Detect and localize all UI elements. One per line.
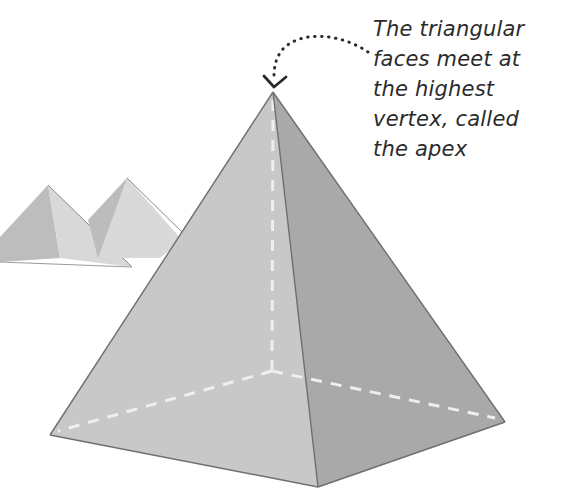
annotation-line-3: the highest — [373, 74, 583, 104]
arrowhead-icon — [264, 76, 286, 87]
apex-pointer-arrow — [264, 36, 368, 87]
annotation-line-1: The triangular — [373, 14, 583, 44]
annotation-line-5: the apex — [373, 134, 583, 164]
pyramid-diagram: The triangular faces meet at the highest… — [0, 0, 584, 499]
apex-annotation: The triangular faces meet at the highest… — [373, 14, 583, 164]
annotation-line-2: faces meet at — [373, 44, 583, 74]
left-face — [50, 92, 318, 487]
annotation-line-4: vertex, called — [373, 104, 583, 134]
background-pyramids — [0, 178, 182, 267]
